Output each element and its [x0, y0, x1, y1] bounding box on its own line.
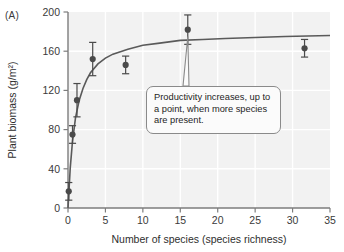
annotation-text: Productivity increases, up to a point, w…: [154, 92, 270, 125]
svg-text:5: 5: [103, 214, 109, 226]
svg-text:120: 120: [42, 84, 60, 96]
svg-text:25: 25: [249, 214, 261, 226]
svg-text:80: 80: [48, 123, 60, 135]
y-axis-title: Plant biomass (g/m²): [6, 62, 18, 159]
y-axis-ticks: 04080120160200: [42, 6, 68, 214]
svg-text:15: 15: [174, 214, 186, 226]
svg-text:200: 200: [42, 6, 60, 18]
svg-text:40: 40: [48, 163, 60, 175]
svg-text:35: 35: [324, 214, 336, 226]
figure-panel: (A) 05101520253035 04080120160200 Number…: [0, 0, 344, 252]
annotation-callout: Productivity increases, up to a point, w…: [146, 86, 281, 134]
svg-text:20: 20: [212, 214, 224, 226]
x-axis-title: Number of species (species richness): [111, 233, 286, 245]
svg-text:10: 10: [137, 214, 149, 226]
svg-text:0: 0: [65, 214, 71, 226]
svg-text:160: 160: [42, 45, 60, 57]
svg-text:30: 30: [287, 214, 299, 226]
svg-text:0: 0: [54, 202, 60, 214]
x-axis-ticks: 05101520253035: [65, 208, 336, 226]
